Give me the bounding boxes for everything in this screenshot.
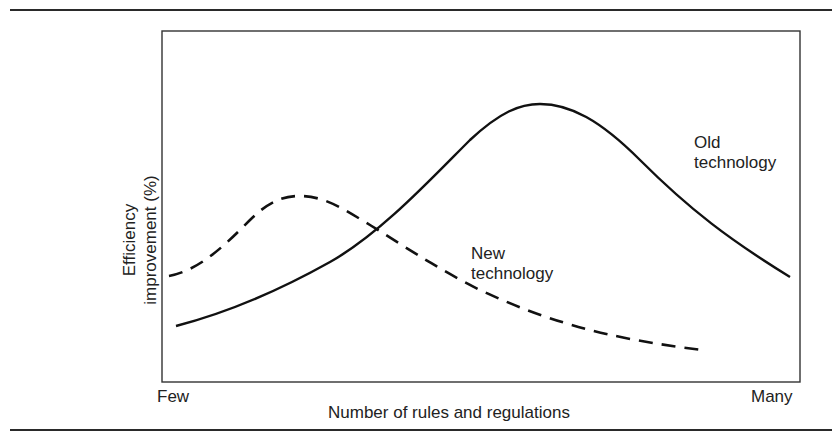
x-tick-many: Many	[751, 387, 793, 407]
plot-frame	[162, 31, 800, 382]
y-axis-label: Efficiency improvement (%)	[110, 150, 170, 330]
y-axis-label-line2: improvement (%)	[140, 175, 161, 304]
old-technology-label-line2: technology	[694, 153, 776, 173]
old-technology-label-line1: Old	[694, 133, 720, 153]
new-technology-label-line1: New	[471, 244, 505, 264]
x-tick-few: Few	[157, 387, 189, 407]
new-technology-label-line2: technology	[471, 264, 553, 284]
new-technology-curve	[169, 196, 703, 350]
y-axis-label-line1: Efficiency	[119, 175, 140, 304]
x-axis-label: Number of rules and regulations	[328, 403, 570, 423]
bottom-rule	[10, 429, 832, 431]
